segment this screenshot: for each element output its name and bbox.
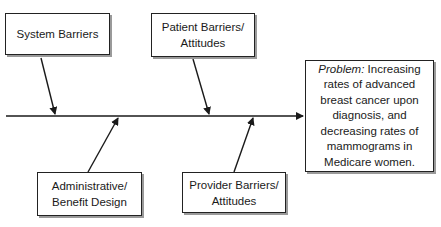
system-barriers-box: System Barriers xyxy=(5,13,110,55)
provider-barriers-label: Provider Barriers/ Attitudes xyxy=(189,177,278,209)
patient-barriers-box: Patient Barriers/ Attitudes xyxy=(151,13,255,57)
patient-barriers-label: Patient Barriers/ Attitudes xyxy=(162,19,244,51)
administrative-label: Administrative/ Benefit Design xyxy=(52,178,127,210)
problem-statement: Problem: Increasing rates of advanced br… xyxy=(310,62,429,171)
patient-arrow xyxy=(193,59,209,114)
admin-arrow xyxy=(88,118,118,172)
problem-text: Increasing rates of advanced breast canc… xyxy=(320,63,420,168)
provider-barriers-box: Provider Barriers/ Attitudes xyxy=(182,172,286,213)
administrative-box: Administrative/ Benefit Design xyxy=(37,172,142,216)
provider-arrow xyxy=(234,118,253,172)
problem-box: Problem: Increasing rates of advanced br… xyxy=(305,60,434,172)
system-arrow xyxy=(41,58,55,114)
problem-label: Problem: xyxy=(318,63,364,75)
system-barriers-label: System Barriers xyxy=(17,26,99,42)
